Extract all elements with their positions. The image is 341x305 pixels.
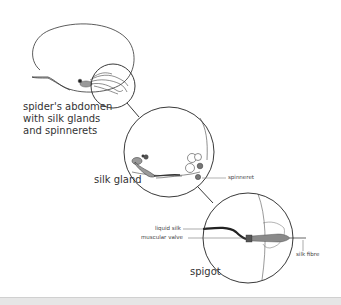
spigot-label: spigot xyxy=(190,267,221,277)
spinneret-label: spinneret xyxy=(228,175,254,181)
abdomen-label-line-1: spider's abdomen xyxy=(23,101,112,113)
liquid-silk-label: liquid silk xyxy=(155,226,181,232)
silk-gland-drawing xyxy=(132,118,207,180)
silk-gland-label: silk gland xyxy=(94,175,142,185)
abdomen-label-line-2: with silk glands xyxy=(23,113,112,125)
abdomen-label: spider's abdomen with silk glands and sp… xyxy=(23,101,112,137)
abdomen-lower-edge xyxy=(32,77,70,90)
muscular-valve-label: muscular valve xyxy=(141,235,183,241)
connector-1 xyxy=(127,103,139,117)
connector-2 xyxy=(198,187,213,203)
footer-bar xyxy=(0,297,341,305)
silk-fibre-label: silk fibre xyxy=(296,252,319,258)
abdomen-label-line-3: and spinnerets xyxy=(23,125,112,137)
